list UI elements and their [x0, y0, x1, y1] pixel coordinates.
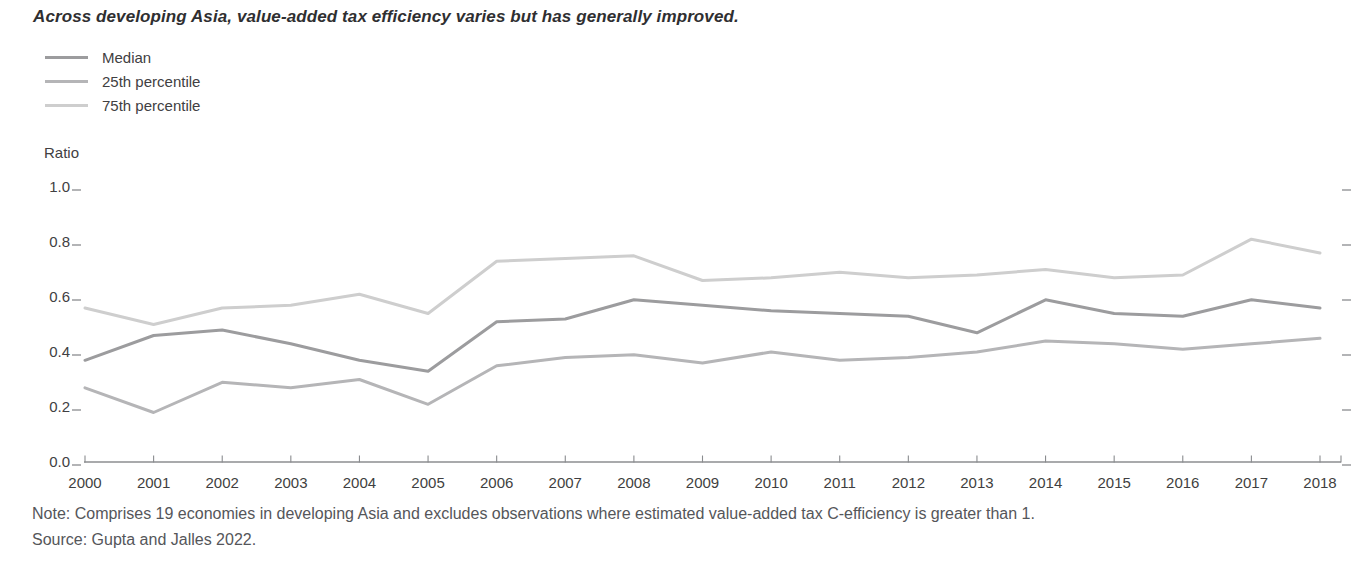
x-axis-tick-label: 2008	[617, 474, 650, 491]
x-axis-tick-label: 2013	[960, 474, 993, 491]
x-axis-tick-label: 2005	[411, 474, 444, 491]
x-axis-tick-label: 2012	[892, 474, 925, 491]
series-line-25th-percentile	[85, 338, 1320, 412]
y-axis-tick-label: 0.0	[49, 453, 70, 470]
x-axis-tick-label: 2018	[1303, 474, 1336, 491]
note-text: Note: Comprises 19 economies in developi…	[32, 501, 1035, 527]
x-axis-tick-label: 2007	[549, 474, 582, 491]
y-axis-tick-label: 0.4	[49, 343, 70, 360]
series-line-median	[85, 300, 1320, 372]
x-axis-tick-label: 2010	[754, 474, 787, 491]
y-axis-tick-label: 0.2	[49, 398, 70, 415]
footnotes: Note: Comprises 19 economies in developi…	[32, 501, 1035, 553]
x-axis-tick-label: 2002	[206, 474, 239, 491]
line-chart: 0.00.20.40.60.81.02000200120022003200420…	[0, 0, 1351, 564]
source-text: Source: Gupta and Jalles 2022.	[32, 527, 1035, 553]
x-axis-tick-label: 2009	[686, 474, 719, 491]
x-axis-tick-label: 2014	[1029, 474, 1062, 491]
x-axis-tick-label: 2006	[480, 474, 513, 491]
x-axis-tick-label: 2001	[137, 474, 170, 491]
y-axis-tick-label: 0.8	[49, 233, 70, 250]
series-line-75th-percentile	[85, 239, 1320, 324]
x-axis-tick-label: 2017	[1235, 474, 1268, 491]
x-axis-tick-label: 2004	[343, 474, 376, 491]
y-axis-tick-label: 1.0	[49, 178, 70, 195]
x-axis-tick-label: 2011	[824, 474, 856, 491]
x-axis-tick-label: 2016	[1166, 474, 1199, 491]
y-axis-tick-label: 0.6	[49, 288, 70, 305]
x-axis-tick-label: 2003	[274, 474, 307, 491]
x-axis-tick-label: 2000	[68, 474, 101, 491]
vat-efficiency-figure: Across developing Asia, value-added tax …	[0, 0, 1351, 564]
x-axis-tick-label: 2015	[1097, 474, 1130, 491]
